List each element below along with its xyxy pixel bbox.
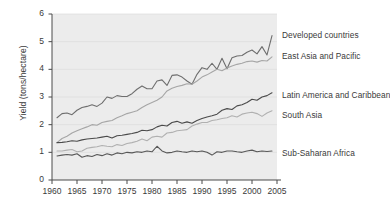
series-label-3: South Asia — [282, 110, 322, 120]
series-line-1 — [57, 57, 272, 143]
y-tick-label: 1 — [28, 146, 44, 156]
series-label-0: Developed countries — [282, 30, 359, 40]
y-axis-title: Yield (tons/hectare) — [18, 8, 28, 158]
axis-ticks — [49, 14, 278, 184]
y-tick-label: 5 — [28, 36, 44, 46]
y-tick-label: 6 — [28, 8, 44, 18]
y-tick-label: 3 — [28, 91, 44, 101]
y-tick-label: 2 — [28, 119, 44, 129]
series-label-2: Latin America and Caribbean — [282, 90, 390, 100]
y-tick-label: 0 — [28, 174, 44, 184]
series-label-4: Sub-Saharan Africa — [282, 148, 355, 158]
series-line-3 — [57, 111, 272, 152]
x-tick-label: 2005 — [262, 186, 292, 196]
series-lines — [57, 36, 272, 158]
series-label-1: East Asia and Pacific — [282, 51, 361, 61]
y-tick-label: 4 — [28, 63, 44, 73]
